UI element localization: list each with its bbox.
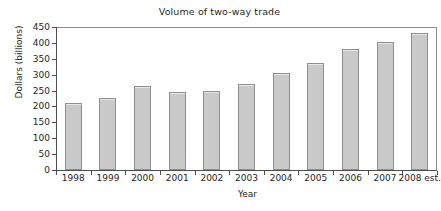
bar <box>65 103 82 170</box>
y-axis-tick-mark <box>52 154 56 155</box>
bar-highlight <box>66 104 81 105</box>
x-axis-tick-label: 2007 <box>374 174 397 183</box>
x-axis-tick-mark <box>195 171 196 175</box>
x-axis-tick-mark <box>160 171 161 175</box>
x-axis-tick-label: 2003 <box>235 174 258 183</box>
bar-highlight <box>378 43 393 44</box>
plot-frame-top <box>56 27 437 28</box>
y-axis-tick-mark <box>52 43 56 44</box>
bar <box>377 42 394 170</box>
x-axis-tick-mark <box>91 171 92 175</box>
x-axis-tick-mark <box>368 171 369 175</box>
bar <box>273 73 290 170</box>
x-axis-tick-label: 2004 <box>270 174 293 183</box>
x-axis-tick-mark <box>298 171 299 175</box>
bar-highlight <box>308 64 323 65</box>
bar-highlight <box>412 34 427 35</box>
x-axis-tick-label: 2001 <box>166 174 189 183</box>
x-axis-tick-mark <box>125 171 126 175</box>
y-axis-tick-label: 400 <box>33 38 50 47</box>
x-axis-tick-mark <box>56 171 57 175</box>
plot-frame-right <box>436 27 437 171</box>
y-axis-line <box>56 27 57 171</box>
x-axis-label: Year <box>56 189 439 199</box>
bar <box>99 98 116 170</box>
x-axis-tick-mark <box>229 171 230 175</box>
bar <box>342 49 359 170</box>
y-axis-tick-mark <box>52 91 56 92</box>
y-axis-tick-mark <box>52 27 56 28</box>
y-axis-tick-mark <box>52 75 56 76</box>
x-axis-tick-label: 1998 <box>62 174 85 183</box>
y-axis-tick-label: 250 <box>33 86 50 95</box>
y-axis-tick-label: 450 <box>33 23 50 32</box>
bar <box>203 91 220 170</box>
chart-title: Volume of two-way trade <box>0 6 439 17</box>
y-axis-tick-mark <box>52 106 56 107</box>
y-axis-tick-label: 300 <box>33 70 50 79</box>
x-axis-tick-label: 2000 <box>131 174 154 183</box>
plot-area: 050100150200250300350400450 199819992000… <box>56 27 437 171</box>
bar-highlight <box>343 50 358 51</box>
y-axis-tick-label: 100 <box>33 134 50 143</box>
y-axis-label: Dollars (billions) <box>14 0 24 132</box>
x-axis-tick-label: 1999 <box>97 174 120 183</box>
bar-highlight <box>100 99 115 100</box>
bar <box>169 92 186 170</box>
bar-highlight <box>204 92 219 93</box>
bar <box>134 86 151 170</box>
y-axis-tick-label: 350 <box>33 54 50 63</box>
y-axis-tick-mark <box>52 122 56 123</box>
x-axis-tick-label: 2005 <box>304 174 327 183</box>
bar <box>238 84 255 170</box>
x-axis-tick-label: 2008 est. <box>398 174 440 183</box>
y-axis-tick-label: 0 <box>44 166 50 175</box>
x-axis-tick-label: 2002 <box>200 174 223 183</box>
x-axis-line <box>56 170 437 171</box>
x-axis-tick-mark <box>264 171 265 175</box>
y-axis-tick-mark <box>52 59 56 60</box>
y-axis-tick-label: 200 <box>33 102 50 111</box>
y-axis-tick-mark <box>52 138 56 139</box>
y-axis-tick-label: 50 <box>39 150 50 159</box>
bar <box>411 33 428 170</box>
bar-highlight <box>170 93 185 94</box>
bar-highlight <box>135 87 150 88</box>
bar <box>307 63 324 170</box>
bar-highlight <box>274 74 289 75</box>
x-axis-tick-mark <box>333 171 334 175</box>
y-axis-tick-label: 150 <box>33 118 50 127</box>
x-axis-tick-label: 2006 <box>339 174 362 183</box>
bar-highlight <box>239 85 254 86</box>
